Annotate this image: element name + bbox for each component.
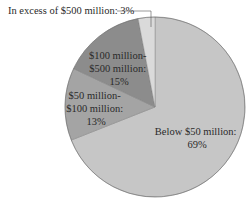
label-over-500m: In excess of $500 million: 3% bbox=[8, 5, 135, 16]
pie-chart: In excess of $500 million: 3% $100 milli… bbox=[0, 0, 250, 202]
